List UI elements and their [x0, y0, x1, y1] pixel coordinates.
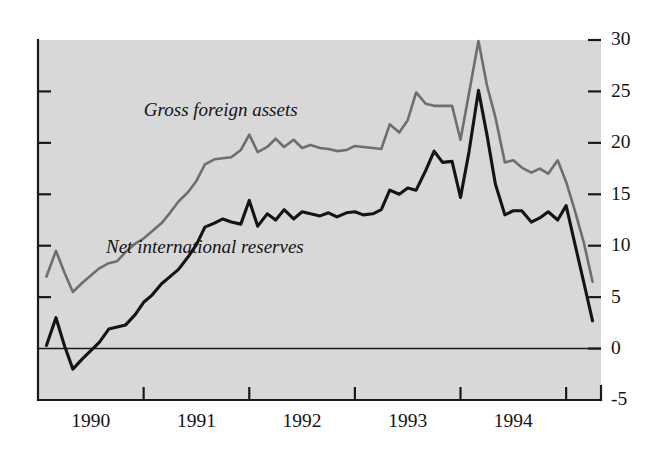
y-tick-label-20: 20: [611, 131, 631, 152]
chart-figure: 302520151050-5 19901991199219931994 Gros…: [0, 0, 663, 453]
y-tick-label-5: 5: [611, 286, 621, 307]
chart-page: 302520151050-5 19901991199219931994 Gros…: [0, 0, 663, 453]
x-tick-label-1991: 1991: [177, 410, 216, 431]
series-annotation-net-international-reserves: Net international reserves: [105, 236, 304, 257]
y-tick-label-30: 30: [611, 28, 631, 49]
x-tick-label-1990: 1990: [71, 410, 110, 431]
y-tick-label-10: 10: [611, 234, 631, 255]
y-tick-label-25: 25: [611, 80, 631, 101]
x-tick-label-1994: 1994: [494, 410, 533, 431]
y-tick-label-0: 0: [611, 337, 621, 358]
x-tick-label-1992: 1992: [283, 410, 322, 431]
y-tick-label--5: -5: [611, 388, 627, 409]
plot-background: [38, 40, 601, 400]
chart-canvas: 302520151050-5 19901991199219931994 Gros…: [0, 0, 663, 453]
y-tick-label-15: 15: [611, 183, 631, 204]
x-tick-label-1993: 1993: [388, 410, 427, 431]
series-annotation-gross-foreign-assets: Gross foreign assets: [144, 99, 298, 120]
